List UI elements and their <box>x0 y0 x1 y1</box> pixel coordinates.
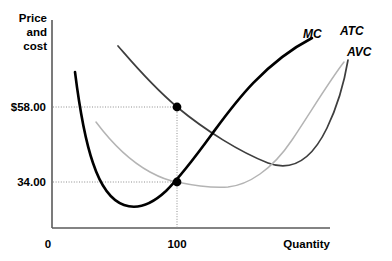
x-axis-label: Quantity <box>283 238 330 250</box>
x-tick-100-label: 100 <box>167 238 186 250</box>
mc-curve <box>75 38 312 207</box>
mc-curve-label: MC <box>303 27 322 41</box>
y-tick-34-label: 34.00 <box>17 176 46 188</box>
y-tick-58-label: $58.00 <box>11 101 46 113</box>
avc-curve-label: AVC <box>346 45 372 59</box>
y-axis-label-line2: and <box>27 26 47 38</box>
cost-curves-chart: Price and cost $58.00 34.00 0 100 Quanti… <box>0 0 392 261</box>
atc-curve-label: ATC <box>339 24 364 38</box>
y-axis-label-line1: Price <box>19 12 47 24</box>
y-axis-label-line3: cost <box>23 40 47 52</box>
avc-mc-point-marker <box>173 178 182 187</box>
chart-canvas: Price and cost $58.00 34.00 0 100 Quanti… <box>0 0 392 261</box>
x-origin-label: 0 <box>45 238 51 250</box>
atc-point-marker <box>173 103 182 112</box>
